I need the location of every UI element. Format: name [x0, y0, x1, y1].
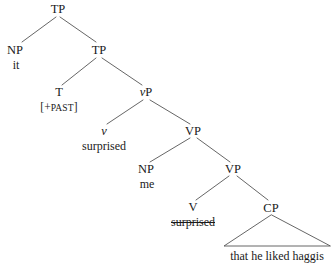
branch-vp-v-little	[107, 100, 143, 124]
branch-tp-vp	[102, 58, 142, 85]
terminal-t-feature: [+PAST]	[40, 102, 77, 114]
tree-branch-lines	[0, 0, 332, 265]
node-tp-inner: TP	[92, 44, 107, 57]
terminal-cp: that he liked haggis	[230, 250, 324, 262]
node-vp-little-p: P	[145, 85, 152, 99]
branch-tp-root-tp	[60, 17, 96, 42]
terminal-v-little: surprised	[82, 140, 126, 152]
branch-vp-v-head	[196, 176, 229, 200]
feature-small-caps: PAST	[51, 103, 74, 113]
node-cp: CP	[263, 202, 278, 215]
node-v-head: V	[188, 201, 197, 214]
node-vp-little: vP	[140, 86, 153, 99]
node-vp-lower: VP	[225, 163, 241, 176]
node-np-object: NP	[138, 163, 154, 176]
node-np-subject: NP	[7, 44, 23, 57]
node-t-head: T	[55, 86, 63, 99]
branch-vp-vp-lower	[197, 138, 230, 162]
terminal-np-object: me	[140, 178, 155, 190]
branch-vp-cp	[237, 176, 268, 200]
feature-bracket-open: [+	[40, 101, 50, 113]
syntax-tree-figure: TP NP it TP T [+PAST] vP v surprised VP …	[0, 0, 332, 265]
branch-tp-root-np	[22, 17, 56, 42]
terminal-np-subject: it	[13, 59, 20, 71]
node-v-little: v	[101, 125, 107, 138]
branch-tp-t	[62, 58, 96, 85]
feature-bracket-close: ]	[74, 101, 78, 113]
node-vp-upper: VP	[185, 125, 201, 138]
terminal-v-head-struck: surprised	[171, 216, 215, 228]
cp-triangle	[224, 215, 330, 246]
branch-vp-np-object	[150, 138, 190, 162]
branch-vp-vp-upper	[150, 100, 190, 124]
node-tp-root: TP	[51, 3, 66, 16]
